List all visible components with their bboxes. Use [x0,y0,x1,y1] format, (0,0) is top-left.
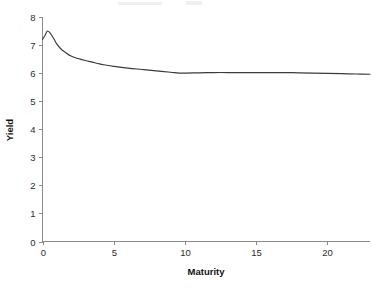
y-tick-label: 3 [30,152,35,163]
y-tick-label: 8 [30,12,35,23]
x-tick-label: 15 [251,247,262,258]
y-tick-label: 7 [30,40,35,51]
y-axis-ticks [39,18,43,243]
x-tick-label: 20 [322,247,333,258]
x-tick-label: 10 [180,247,191,258]
x-axis-title: Maturity [188,266,226,277]
x-axis-tick-labels: 05101520 [41,247,333,258]
y-tick-label: 0 [30,237,35,248]
y-axis-tick-labels: 012345678 [30,12,35,248]
x-tick-label: 0 [41,247,46,258]
y-tick-label: 2 [30,180,35,191]
x-axis: 05101520 [41,242,370,258]
y-tick-label: 5 [30,96,35,107]
y-tick-label: 1 [30,208,35,219]
x-axis-ticks [44,242,328,246]
y-tick-label: 4 [30,124,35,135]
yield-series-line [43,31,371,74]
y-axis-title: Yield [4,119,15,142]
yield-curve-chart: 012345678 05101520 Maturity Yield [0,0,371,288]
chart-canvas: 012345678 05101520 Maturity Yield [0,0,371,288]
y-tick-label: 6 [30,68,35,79]
y-axis: 012345678 [30,12,42,248]
x-tick-label: 5 [112,247,117,258]
